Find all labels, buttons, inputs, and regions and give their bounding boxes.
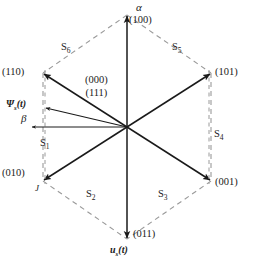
vector-arrow-010 xyxy=(44,127,127,180)
zero-vector-labels: (000) (111) xyxy=(85,73,108,99)
vector-arrow-001 xyxy=(127,127,210,180)
space-vector-hexagon-figure: α (100) (110) (101) (010) (001) (011) (0… xyxy=(0,0,257,262)
alpha-axis-label: α xyxy=(136,2,142,14)
hex-edge-top-left xyxy=(43,15,127,73)
stator-flux-vector-label: Ψs(t) xyxy=(6,99,26,112)
vector-label-011: (011) xyxy=(133,228,155,239)
sector-label-s2: S2 xyxy=(86,188,96,202)
vector-label-100: (100) xyxy=(129,14,152,25)
sector-s1-index: 1 xyxy=(46,142,50,151)
hex-edge-bottom-left xyxy=(43,181,127,239)
zero-vector-label-000: (000) xyxy=(85,73,108,86)
sector-s2-index: 2 xyxy=(92,193,96,202)
vector-label-101: (101) xyxy=(215,66,238,77)
vector-label-010: (010) xyxy=(2,167,25,178)
sector-label-s3: S3 xyxy=(158,188,168,202)
sector-label-s4: S4 xyxy=(214,128,224,142)
vector-label-001: (001) xyxy=(215,176,238,187)
sector-label-s6: S6 xyxy=(61,41,71,55)
stator-flux-vector-arrow xyxy=(46,108,127,127)
sector-s4-index: 4 xyxy=(220,133,224,142)
j-marker-label: J xyxy=(35,184,39,193)
zero-vector-label-111: (111) xyxy=(85,86,108,99)
flux-argument: (t) xyxy=(17,98,26,109)
vector-arrow-101 xyxy=(127,74,210,127)
sector-s5-index: 5 xyxy=(178,46,182,55)
sector-s3-index: 3 xyxy=(164,193,168,202)
sector-label-s1: S1 xyxy=(40,137,50,151)
sector-label-s5: S5 xyxy=(172,41,182,55)
us-vector-label: us(t) xyxy=(110,245,128,258)
flux-symbol: Ψ xyxy=(6,98,14,109)
us-argument: (t) xyxy=(118,244,127,255)
sector-s6-index: 6 xyxy=(67,46,71,55)
beta-axis-label: β xyxy=(21,113,26,125)
vector-label-110: (110) xyxy=(2,66,24,77)
